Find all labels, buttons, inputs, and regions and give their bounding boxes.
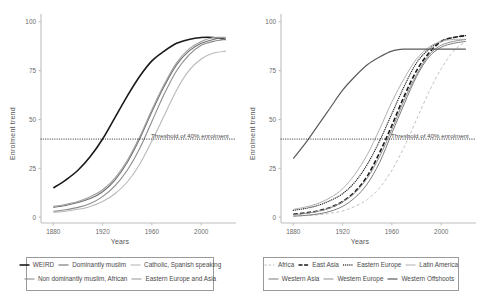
legend-row: Non dominantly muslim, AfricanEastern Eu… (27, 272, 213, 286)
svg-text:2000: 2000 (434, 228, 449, 235)
legend-item[interactable]: Eastern Europe and Asia (131, 276, 216, 282)
svg-text:50: 50 (29, 116, 37, 123)
x-axis-label-left: Years (0, 238, 240, 245)
legend-key-icon (24, 276, 35, 282)
legend-item-label: Western Europe (337, 276, 383, 282)
legend-row: WEIRDDominantly muslimCatholic, Spanish … (27, 258, 213, 272)
legend-item[interactable]: Western Europe (323, 276, 383, 282)
plot-area-left: 02550751001880192019602000 (0, 0, 240, 250)
legend-right[interactable]: AfricaEast AsiaEastern EuropeLatin Ameri… (263, 257, 459, 291)
threshold-annotation-right: Threshold of 40% enrolment (391, 132, 469, 139)
legend-item-label: Africa (278, 262, 294, 268)
legend-row: AfricaEast AsiaEastern EuropeLatin Ameri… (264, 258, 458, 272)
svg-text:1960: 1960 (145, 228, 160, 235)
svg-text:100: 100 (25, 18, 36, 25)
legend-key-icon (405, 262, 416, 268)
y-axis-label-left: Enrolment trend (9, 107, 16, 160)
y-axis-label-right: Enrolment trend (249, 107, 256, 160)
panel-right: 02550751001880192019602000 Years Enrolme… (240, 0, 480, 303)
svg-text:50: 50 (269, 116, 277, 123)
legend-item[interactable]: WEIRD (19, 262, 54, 268)
svg-text:100: 100 (265, 18, 276, 25)
legend-item-label: Western Asia (282, 276, 320, 282)
legend-key-icon (264, 262, 275, 268)
threshold-annotation-left: Threshold of 40% enrolment (151, 132, 229, 139)
legend-item[interactable]: Western Asia (268, 276, 320, 282)
legend-item[interactable]: Catholic, Spanish speaking (130, 262, 221, 268)
legend-item[interactable]: Non dominantly muslim, African (24, 276, 128, 282)
legend-key-icon (58, 262, 69, 268)
svg-text:1880: 1880 (46, 228, 61, 235)
legend-row: Western AsiaWestern EuropeWestern Offsho… (264, 272, 458, 286)
legend-item[interactable]: Latin America (405, 262, 458, 268)
svg-text:0: 0 (272, 214, 276, 221)
legend-item[interactable]: East Asia (298, 262, 339, 268)
svg-text:1880: 1880 (286, 228, 301, 235)
legend-key-icon (387, 276, 398, 282)
legend-item-label: Latin America (419, 262, 458, 268)
svg-text:25: 25 (269, 165, 277, 172)
svg-text:25: 25 (29, 165, 37, 172)
legend-item[interactable]: Western Offshoots (387, 276, 454, 282)
legend-key-icon (343, 262, 354, 268)
legend-key-icon (268, 276, 279, 282)
legend-item-label: Eastern Europe (357, 262, 401, 268)
legend-item-label: Non dominantly muslim, African (38, 276, 128, 282)
legend-item-label: East Asia (312, 262, 339, 268)
plot-area-right: 02550751001880192019602000 (240, 0, 480, 250)
svg-text:1920: 1920 (336, 228, 351, 235)
legend-item-label: Dominantly muslim (72, 262, 126, 268)
legend-key-icon (131, 276, 142, 282)
svg-text:1960: 1960 (385, 228, 400, 235)
legend-item[interactable]: Dominantly muslim (58, 262, 126, 268)
series-line (53, 39, 226, 211)
legend-item-label: Eastern Europe and Asia (145, 276, 216, 282)
legend-key-icon (298, 262, 309, 268)
legend-left[interactable]: WEIRDDominantly muslimCatholic, Spanish … (26, 257, 214, 291)
legend-item-label: WEIRD (33, 262, 54, 268)
legend-key-icon (19, 262, 30, 268)
svg-text:0: 0 (32, 214, 36, 221)
legend-key-icon (130, 262, 141, 268)
legend-item-label: Western Offshoots (401, 276, 454, 282)
series-line (53, 37, 226, 207)
legend-key-icon (323, 276, 334, 282)
legend-item[interactable]: Eastern Europe (343, 262, 401, 268)
figure-root: 02550751001880192019602000 Years Enrolme… (0, 0, 480, 303)
series-line (53, 37, 226, 206)
svg-text:75: 75 (29, 67, 37, 74)
svg-text:1920: 1920 (96, 228, 111, 235)
svg-text:2000: 2000 (194, 228, 209, 235)
legend-item[interactable]: Africa (264, 262, 294, 268)
svg-text:75: 75 (269, 67, 277, 74)
panel-left: 02550751001880192019602000 Years Enrolme… (0, 0, 240, 303)
legend-item-label: Catholic, Spanish speaking (144, 262, 221, 268)
x-axis-label-right: Years (240, 238, 480, 245)
